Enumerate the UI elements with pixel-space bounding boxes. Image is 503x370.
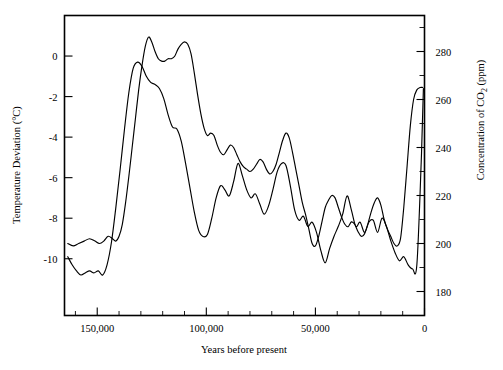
y-right-axis-tick-label: 280 [436, 47, 452, 58]
y-right-axis-tick-label: 260 [436, 95, 452, 106]
x-axis-tick-label: 50,000 [301, 323, 330, 334]
y-right-axis-title-post: (ppm) [475, 59, 487, 88]
y-left-axis-title-unit: °C) [11, 106, 23, 121]
y-right-axis-tick-label: 200 [436, 239, 452, 250]
plot-frame [65, 16, 425, 316]
chart-canvas: 150,000100,00050,0000 0-2-4-6-8-10 28026… [0, 0, 503, 370]
y-left-axis-title-main: Temperature Deviation ( [11, 120, 23, 224]
y-left-axis-tick-label: -2 [49, 92, 58, 103]
x-axis-tick-label: 100,000 [189, 323, 223, 334]
y-left-axis-tick-label: -4 [49, 132, 58, 143]
y-left-axis-tick-label: -6 [49, 173, 58, 184]
x-axis-ticks: 150,000100,00050,0000 [75, 308, 427, 334]
y-right-axis-title-pre: Concentration of CO [475, 92, 486, 180]
y-right-axis-tick-label: 180 [436, 287, 452, 298]
y-left-axis-tick-label: -8 [49, 213, 58, 224]
y-left-axis-title: Temperature Deviation (°C) [11, 106, 23, 224]
figure-container: 150,000100,00050,0000 0-2-4-6-8-10 28026… [0, 0, 503, 370]
y-right-axis-tick-label: 240 [436, 143, 452, 154]
y-left-axis-ticks: 0-2-4-6-8-10 [44, 51, 73, 265]
y-left-axis-tick-label: -10 [44, 254, 58, 265]
x-axis-title: Years before present [201, 344, 287, 355]
co2-concentration-curve [68, 37, 423, 246]
y-left-axis-tick-label: 0 [52, 51, 57, 62]
y-right-axis-tick-label: 220 [436, 191, 452, 202]
x-axis-tick-label: 0 [422, 323, 427, 334]
y-right-axis-title: Concentration of CO2 (ppm) [475, 59, 489, 180]
x-axis-tick-label: 150,000 [80, 323, 114, 334]
